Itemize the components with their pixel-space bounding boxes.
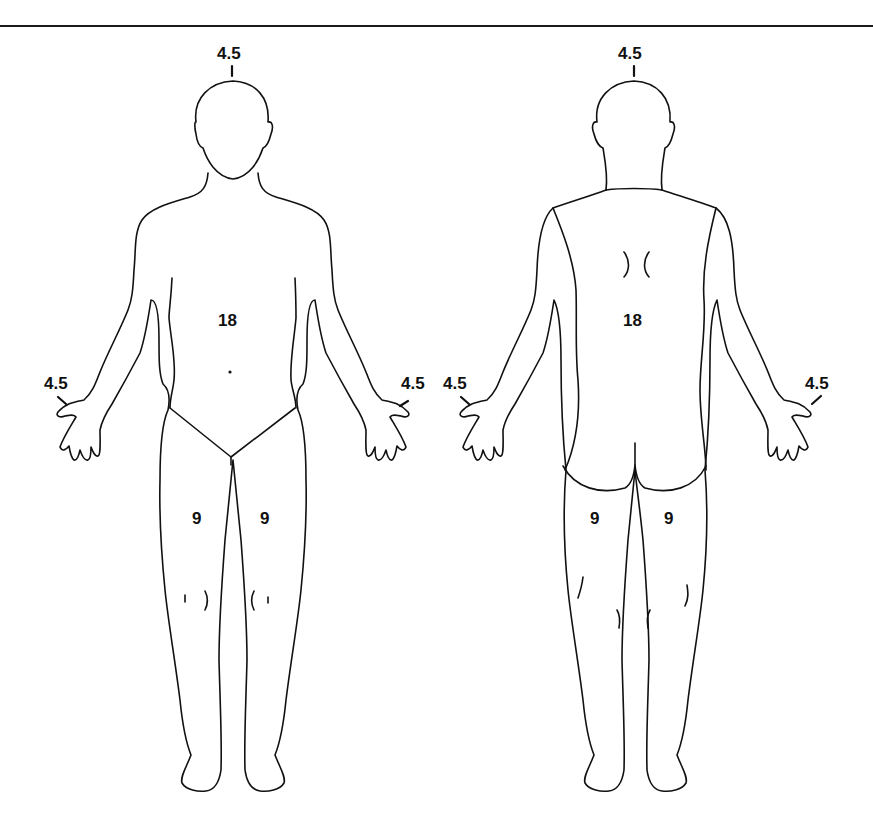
posterior-neckline — [606, 189, 662, 191]
anterior-left-knee-marks — [185, 591, 207, 610]
posterior-right-arm-label: 4.5 — [443, 375, 467, 392]
anterior-right-leg-label: 9 — [192, 510, 201, 527]
anterior-left-hand-tick — [400, 401, 408, 406]
posterior-right-knee-mark — [647, 585, 687, 628]
posterior-left-hand-tick — [812, 396, 821, 404]
anterior-groin-line — [170, 408, 295, 457]
posterior-figure — [460, 66, 821, 791]
anterior-body-outline — [57, 173, 409, 791]
anterior-right-knee-marks — [252, 591, 268, 610]
anterior-left-arm-label: 4.5 — [401, 375, 425, 392]
posterior-head-label: 4.5 — [618, 45, 642, 62]
posterior-body-outline — [460, 190, 811, 791]
anterior-right-arm-label: 4.5 — [44, 375, 68, 392]
posterior-right-leg-label: 9 — [590, 510, 599, 527]
anterior-head-label: 4.5 — [217, 45, 241, 62]
anterior-left-flank-line — [169, 278, 174, 408]
anterior-right-hand-tick — [58, 397, 66, 404]
posterior-left-scapula-mark — [624, 252, 629, 277]
anterior-left-leg-label: 9 — [260, 510, 269, 527]
anterior-head-outline — [195, 81, 273, 179]
posterior-trunk-label: 18 — [623, 312, 642, 329]
posterior-left-leg-label: 9 — [664, 510, 673, 527]
body-diagram — [0, 0, 873, 820]
anterior-right-flank-line — [291, 278, 296, 408]
posterior-left-knee-mark — [578, 577, 620, 628]
anterior-figure — [57, 66, 409, 791]
posterior-head-outline — [593, 81, 675, 190]
posterior-left-back-line — [553, 208, 579, 470]
anterior-trunk-label: 18 — [218, 312, 237, 329]
posterior-left-arm-label: 4.5 — [805, 375, 829, 392]
navel-dot — [228, 370, 231, 373]
posterior-right-hand-tick — [461, 397, 469, 404]
posterior-right-scapula-mark — [645, 252, 650, 277]
